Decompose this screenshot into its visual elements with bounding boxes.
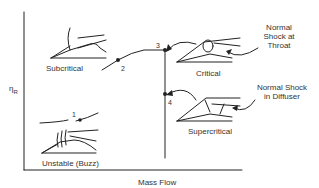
arrowhead-supercritical [166, 90, 173, 96]
diffuser-shock-annotation: Normal Shock in Diffuser [254, 83, 310, 101]
diffuser-annotation-line2: in Diffuser [254, 92, 310, 101]
throat-annotation-line1: Normal [256, 23, 302, 32]
point-3-marker [163, 48, 167, 52]
point-4-label: 4 [168, 98, 172, 107]
supercritical-label: Supercritical [188, 127, 232, 136]
point-1-marker [78, 118, 82, 122]
subcritical-label: Subcritical [46, 64, 83, 73]
critical-label: Critical [196, 69, 220, 78]
throat-shock-annotation: Normal Shock at Throat [256, 23, 302, 50]
point-3-label: 3 [156, 41, 160, 50]
point-1-label: 1 [72, 110, 76, 119]
throat-annotation-line3: Throat [256, 41, 302, 50]
curve-unstable [40, 120, 68, 123]
point-2-marker [116, 58, 120, 62]
point-2-label: 2 [121, 64, 125, 73]
supercritical-inlet-sketch [168, 90, 255, 121]
y-axis-label: ηR [9, 84, 18, 94]
y-axis-subscript: R [13, 89, 17, 95]
arrowhead-critical [166, 44, 172, 52]
subcritical-inlet-sketch [51, 28, 106, 58]
point-4-marker [163, 92, 167, 96]
x-axis-label: Mass Flow [138, 178, 176, 187]
diffuser-annotation-line1: Normal Shock [254, 83, 310, 92]
throat-annotation-line2: Shock at [256, 32, 302, 41]
curve-subcritical [102, 50, 164, 70]
unstable-inlet-sketch [42, 130, 98, 153]
critical-inlet-sketch [168, 38, 258, 62]
unstable-label: Unstable (Buzz) [42, 159, 99, 168]
